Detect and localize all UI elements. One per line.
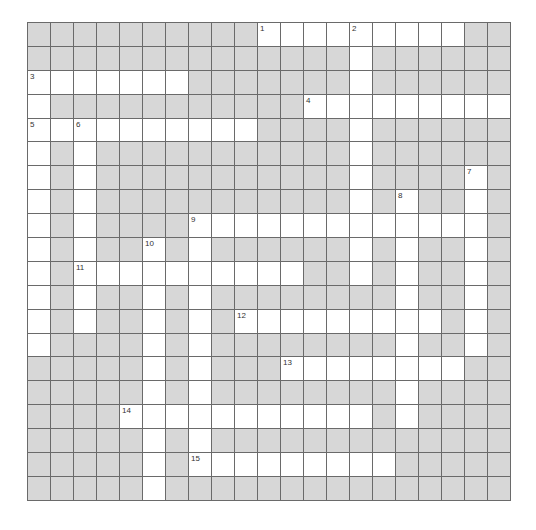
answer-cell[interactable]: [258, 214, 281, 238]
answer-cell[interactable]: [350, 190, 373, 214]
answer-cell[interactable]: [189, 286, 212, 310]
answer-cell[interactable]: [350, 95, 373, 119]
answer-cell[interactable]: [304, 405, 327, 429]
answer-cell[interactable]: [166, 119, 189, 143]
answer-cell[interactable]: [74, 238, 97, 262]
answer-cell[interactable]: [281, 23, 304, 47]
answer-cell[interactable]: [97, 119, 120, 143]
answer-cell[interactable]: [465, 238, 488, 262]
answer-cell[interactable]: [350, 214, 373, 238]
answer-cell[interactable]: [488, 95, 511, 119]
answer-cell[interactable]: [304, 23, 327, 47]
answer-cell[interactable]: [373, 453, 396, 477]
answer-cell[interactable]: [419, 214, 442, 238]
answer-cell[interactable]: [143, 310, 166, 334]
answer-cell[interactable]: [396, 405, 419, 429]
answer-cell[interactable]: [74, 190, 97, 214]
answer-cell[interactable]: [350, 166, 373, 190]
answer-cell[interactable]: [465, 214, 488, 238]
answer-cell[interactable]: 11: [74, 262, 97, 286]
answer-cell[interactable]: [28, 238, 51, 262]
answer-cell[interactable]: [97, 262, 120, 286]
answer-cell[interactable]: [166, 405, 189, 429]
answer-cell[interactable]: [327, 214, 350, 238]
answer-cell[interactable]: [465, 286, 488, 310]
answer-cell[interactable]: [373, 23, 396, 47]
answer-cell[interactable]: [327, 23, 350, 47]
answer-cell[interactable]: [327, 95, 350, 119]
answer-cell[interactable]: [143, 477, 166, 501]
answer-cell[interactable]: [189, 357, 212, 381]
answer-cell[interactable]: [235, 262, 258, 286]
answer-cell[interactable]: [235, 214, 258, 238]
answer-cell[interactable]: [189, 238, 212, 262]
answer-cell[interactable]: [373, 357, 396, 381]
answer-cell[interactable]: [120, 71, 143, 95]
answer-cell[interactable]: [74, 310, 97, 334]
answer-cell[interactable]: [258, 453, 281, 477]
answer-cell[interactable]: [189, 405, 212, 429]
answer-cell[interactable]: [350, 47, 373, 71]
answer-cell[interactable]: [442, 357, 465, 381]
answer-cell[interactable]: [304, 214, 327, 238]
answer-cell[interactable]: 12: [235, 310, 258, 334]
answer-cell[interactable]: [327, 405, 350, 429]
answer-cell[interactable]: 6: [74, 119, 97, 143]
answer-cell[interactable]: [212, 405, 235, 429]
answer-cell[interactable]: [74, 214, 97, 238]
answer-cell[interactable]: [143, 334, 166, 358]
answer-cell[interactable]: [281, 310, 304, 334]
answer-cell[interactable]: [350, 71, 373, 95]
answer-cell[interactable]: [258, 310, 281, 334]
answer-cell[interactable]: [281, 262, 304, 286]
answer-cell[interactable]: [327, 453, 350, 477]
answer-cell[interactable]: [212, 214, 235, 238]
answer-cell[interactable]: [465, 190, 488, 214]
answer-cell[interactable]: [281, 214, 304, 238]
answer-cell[interactable]: [166, 71, 189, 95]
answer-cell[interactable]: [350, 262, 373, 286]
answer-cell[interactable]: [396, 95, 419, 119]
answer-cell[interactable]: [74, 71, 97, 95]
answer-cell[interactable]: [189, 262, 212, 286]
answer-cell[interactable]: [350, 142, 373, 166]
answer-cell[interactable]: 15: [189, 453, 212, 477]
answer-cell[interactable]: [442, 95, 465, 119]
answer-cell[interactable]: 9: [189, 214, 212, 238]
answer-cell[interactable]: [28, 334, 51, 358]
answer-cell[interactable]: [373, 310, 396, 334]
answer-cell[interactable]: [120, 119, 143, 143]
answer-cell[interactable]: [28, 95, 51, 119]
answer-cell[interactable]: [350, 119, 373, 143]
answer-cell[interactable]: [235, 119, 258, 143]
answer-cell[interactable]: [189, 381, 212, 405]
answer-cell[interactable]: [419, 357, 442, 381]
answer-cell[interactable]: [143, 71, 166, 95]
answer-cell[interactable]: [373, 214, 396, 238]
answer-cell[interactable]: [189, 334, 212, 358]
answer-cell[interactable]: [281, 453, 304, 477]
answer-cell[interactable]: [281, 405, 304, 429]
answer-cell[interactable]: [396, 357, 419, 381]
answer-cell[interactable]: 14: [120, 405, 143, 429]
answer-cell[interactable]: 5: [28, 119, 51, 143]
answer-cell[interactable]: [396, 334, 419, 358]
answer-cell[interactable]: [419, 95, 442, 119]
answer-cell[interactable]: [442, 23, 465, 47]
answer-cell[interactable]: [28, 286, 51, 310]
answer-cell[interactable]: [28, 142, 51, 166]
answer-cell[interactable]: [97, 71, 120, 95]
answer-cell[interactable]: [419, 23, 442, 47]
answer-cell[interactable]: [350, 238, 373, 262]
answer-cell[interactable]: [166, 262, 189, 286]
answer-cell[interactable]: 1: [258, 23, 281, 47]
answer-cell[interactable]: 2: [350, 23, 373, 47]
answer-cell[interactable]: [258, 405, 281, 429]
answer-cell[interactable]: [396, 262, 419, 286]
answer-cell[interactable]: [212, 262, 235, 286]
answer-cell[interactable]: [120, 262, 143, 286]
answer-cell[interactable]: [442, 214, 465, 238]
answer-cell[interactable]: 3: [28, 71, 51, 95]
answer-cell[interactable]: [465, 262, 488, 286]
answer-cell[interactable]: [28, 214, 51, 238]
